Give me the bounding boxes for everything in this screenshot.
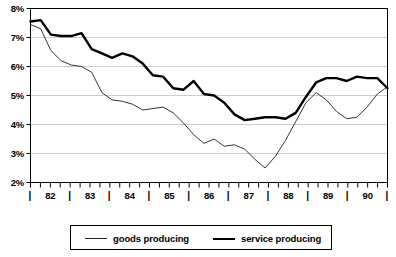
x-axis-separator: | — [108, 190, 111, 201]
x-axis-tick-label: 90 — [352, 190, 384, 201]
x-axis-separator: | — [346, 190, 349, 201]
x-tick-marks — [31, 183, 388, 188]
y-tick-marks — [27, 9, 31, 183]
legend-line-swatch-service-producing — [213, 238, 235, 240]
x-axis-tick-label: 85 — [153, 190, 185, 201]
x-axis-separator: | — [227, 190, 230, 201]
x-axis-separator: | — [29, 190, 32, 201]
chart-legend: goods producing service producing — [70, 225, 332, 250]
x-axis-tick-label: 83 — [74, 190, 106, 201]
legend-label-service-producing: service producing — [241, 233, 321, 244]
x-axis-separator: | — [306, 190, 309, 201]
plot-area — [0, 0, 396, 257]
legend-item-goods-producing: goods producing — [85, 226, 189, 251]
x-axis-separator: | — [267, 190, 270, 201]
line-chart: 8%7%6%5%4%3%2% 82|83|84|85|86|87|88|89|9… — [0, 0, 396, 257]
series-lines — [31, 20, 388, 168]
x-axis-tick-label: 84 — [114, 190, 146, 201]
x-axis-tick-label: 88 — [272, 190, 304, 201]
x-axis-separator: | — [386, 190, 389, 201]
x-axis-tick-label: 82 — [34, 190, 66, 201]
series-line-goods-producing — [31, 24, 388, 168]
x-axis-separator: | — [148, 190, 151, 201]
legend-label-goods-producing: goods producing — [113, 233, 189, 244]
x-axis-tick-label: 89 — [312, 190, 344, 201]
x-axis-tick-label: 86 — [193, 190, 225, 201]
x-axis-tick-label: 87 — [233, 190, 265, 201]
x-axis-separator: | — [187, 190, 190, 201]
legend-line-swatch-goods-producing — [85, 238, 107, 239]
legend-item-service-producing: service producing — [213, 226, 321, 251]
series-line-service-producing — [31, 20, 388, 120]
x-axis-separator: | — [68, 190, 71, 201]
